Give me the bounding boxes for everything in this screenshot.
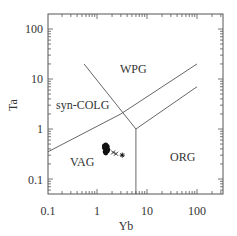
- chart: 0.1 1 10 100 100 10 1 0.1 Yb Ta WPG syn-…: [0, 0, 237, 236]
- y-tick-label: 1: [37, 122, 43, 136]
- x-tick-label: 100: [188, 204, 206, 218]
- y-tick-label: 0.1: [28, 173, 43, 187]
- region-label-syn-colg: syn-COLG: [56, 98, 110, 112]
- y-axis-title: Ta: [6, 98, 20, 110]
- x-axis-title: Yb: [119, 219, 134, 233]
- x-tick-label: 1: [94, 204, 100, 218]
- field-boundaries: [48, 64, 197, 194]
- region-label-org: ORG: [170, 150, 196, 164]
- x-tick-label: 10: [141, 204, 153, 218]
- region-label-wpg: WPG: [120, 62, 147, 76]
- y-tick-label: 10: [31, 72, 43, 86]
- y-tick-label: 100: [25, 22, 43, 36]
- x-tick-label: 0.1: [41, 204, 56, 218]
- data-points: [102, 143, 125, 158]
- region-label-vag: VAG: [70, 155, 95, 169]
